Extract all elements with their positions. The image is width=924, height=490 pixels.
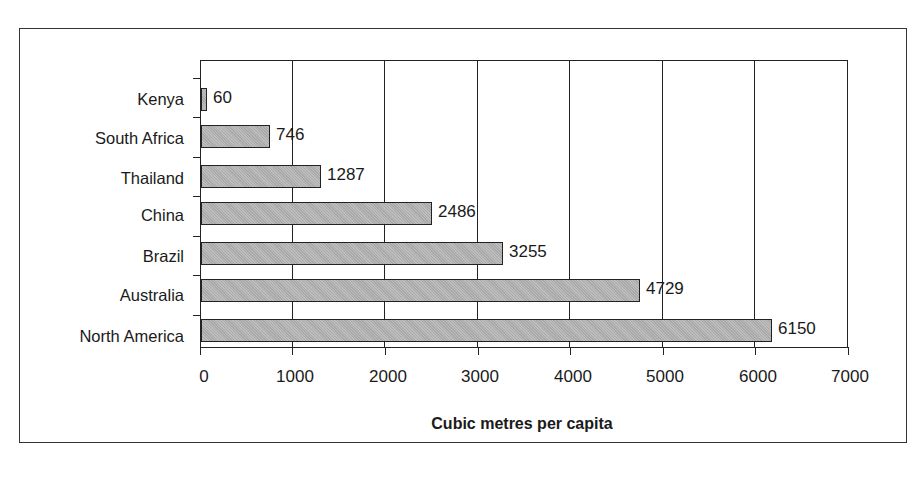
category-label-south-africa: South Africa xyxy=(95,128,184,148)
y-tick xyxy=(193,78,200,79)
x-tick-1000 xyxy=(292,347,293,355)
category-label-north-america: North America xyxy=(79,326,184,346)
category-label-kenya: Kenya xyxy=(137,89,184,109)
bar-australia xyxy=(201,279,640,302)
bar-brazil xyxy=(201,242,503,265)
gridline-5000 xyxy=(662,61,663,347)
y-tick xyxy=(193,236,200,237)
x-tick-label-5000: 5000 xyxy=(635,367,695,387)
x-tick-3000 xyxy=(478,347,479,355)
x-axis-title-row: Cubic metres per capita xyxy=(0,415,924,433)
gridline-3000 xyxy=(477,61,478,347)
gridline-4000 xyxy=(569,61,570,347)
bar-china xyxy=(201,202,432,225)
x-axis-title: Cubic metres per capita xyxy=(431,415,612,432)
x-tick-label-2000: 2000 xyxy=(358,367,418,387)
category-label-australia: Australia xyxy=(120,285,184,305)
bar-south-africa xyxy=(201,125,270,148)
x-tick-label-0: 0 xyxy=(174,367,234,387)
data-label-china: 2486 xyxy=(438,202,476,222)
x-tick-5000 xyxy=(663,347,664,355)
data-label-thailand: 1287 xyxy=(327,165,365,185)
bar-north-america xyxy=(201,319,772,342)
bar-kenya xyxy=(201,88,207,111)
x-tick-7000 xyxy=(848,347,849,355)
gridline-6000 xyxy=(754,61,755,347)
x-tick-4000 xyxy=(570,347,571,355)
x-tick-label-7000: 7000 xyxy=(820,367,880,387)
category-label-thailand: Thailand xyxy=(121,168,184,188)
x-tick-label-1000: 1000 xyxy=(265,367,325,387)
y-tick xyxy=(193,117,200,118)
plot-area: 60 746 1287 2486 3255 4729 6150 xyxy=(200,60,848,348)
x-tick-label-4000: 4000 xyxy=(543,367,603,387)
data-label-north-america: 6150 xyxy=(778,319,816,339)
x-tick-label-3000: 3000 xyxy=(450,367,510,387)
data-label-brazil: 3255 xyxy=(509,242,547,262)
data-label-south-africa: 746 xyxy=(276,125,304,145)
y-tick xyxy=(193,196,200,197)
x-tick-2000 xyxy=(385,347,386,355)
x-tick-0 xyxy=(200,347,201,355)
bar-thailand xyxy=(201,165,321,188)
y-tick xyxy=(193,275,200,276)
category-label-brazil: Brazil xyxy=(143,246,184,266)
category-label-china: China xyxy=(141,205,184,225)
data-label-australia: 4729 xyxy=(646,279,684,299)
x-tick-label-6000: 6000 xyxy=(728,367,788,387)
y-tick xyxy=(193,157,200,158)
y-tick xyxy=(193,315,200,316)
data-label-kenya: 60 xyxy=(213,88,232,108)
x-tick-6000 xyxy=(755,347,756,355)
